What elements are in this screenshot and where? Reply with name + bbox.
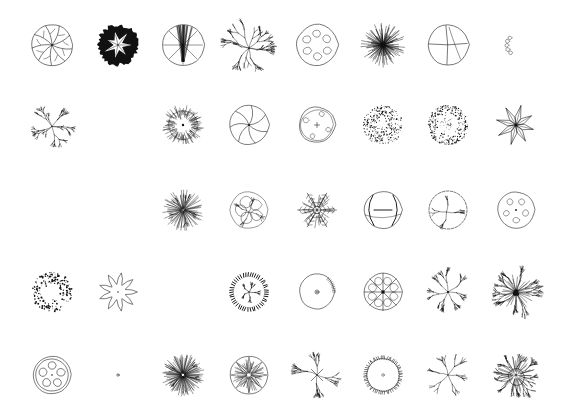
tree-symbol-r2c3 <box>158 100 208 150</box>
tree-symbol-r3c2: M84.52,50.00 Q87.57,54.56 83.47,58.25 Q8… <box>93 185 143 235</box>
tree-symbol-r2c8 <box>491 100 541 150</box>
tree-symbol-r1c7 <box>422 19 474 71</box>
tree-symbol-r4c2 <box>93 267 143 317</box>
tree-symbol-r5c6 <box>358 350 408 400</box>
tree-symbol-r4c7 <box>423 267 473 317</box>
tree-symbol-r2c4 <box>224 100 274 150</box>
tree-symbol-sheet: M86.92,50.00 Q91.80,57.41 85.08,62.77 Q8… <box>0 0 574 417</box>
tree-symbol-r3c7 <box>423 185 473 235</box>
tree-symbol-r4c6 <box>358 267 408 317</box>
tree-symbol-r5c4 <box>224 350 274 400</box>
tree-symbol-r4c4 <box>224 267 274 317</box>
tree-symbol-r2c7 <box>423 100 473 150</box>
tree-symbol-r3c6 <box>358 185 408 235</box>
tree-symbol-r3c3 <box>158 185 208 235</box>
tree-symbol-r3c1: M84.45,50.00 Q89.56,58.15 84.08,64.12 Q8… <box>27 185 77 235</box>
tree-symbol-r2c1 <box>27 100 77 150</box>
tree-symbol-r2c5 <box>292 100 342 150</box>
tree-symbol-r4c8 <box>491 267 541 317</box>
tree-symbol-r4c1 <box>27 267 77 317</box>
tree-symbol-r2c6 <box>358 100 408 150</box>
tree-symbol-r5c8 <box>491 350 541 400</box>
tree-symbol-r5c1 <box>27 350 77 400</box>
tree-symbol-r1c2 <box>92 19 144 71</box>
tree-symbol-r1c8: M86.92,50.00 Q91.80,57.41 85.08,62.77 Q8… <box>490 19 542 71</box>
tree-symbol-r1c6 <box>357 19 409 71</box>
tree-symbol-r2c2: M86.62,50.00 Q90.84,62.09 81.26,70.09 Q7… <box>93 100 143 150</box>
tree-symbol-r3c8 <box>491 185 541 235</box>
tree-symbol-r4c5 <box>292 267 342 317</box>
tree-symbol-r1c4 <box>223 19 275 71</box>
tree-symbol-r5c2: M83.76,50.00 Q87.79,59.37 80.21,65.85 Q7… <box>93 350 143 400</box>
tree-symbol-r5c3 <box>158 350 208 400</box>
tree-symbol-r5c5 <box>292 350 342 400</box>
tree-symbol-r3c4 <box>224 185 274 235</box>
tree-symbol-r1c3 <box>157 19 209 71</box>
tree-symbol-r1c1 <box>26 19 78 71</box>
tree-symbol-r3c5 <box>292 185 342 235</box>
tree-symbol-r5c7 <box>423 350 473 400</box>
tree-symbol-r1c5 <box>291 19 343 71</box>
tree-symbol-r4c3: M85.10,50.00 Q87.15,62.36 79.64,71.54 Q7… <box>158 267 208 317</box>
